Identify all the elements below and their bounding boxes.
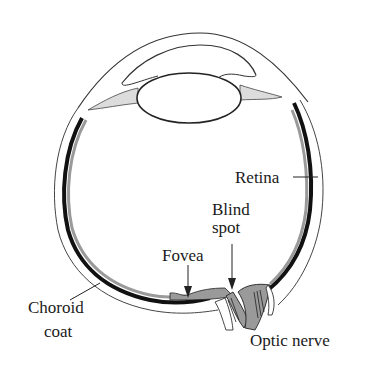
ciliary-body-left bbox=[88, 88, 138, 110]
optic-nerve-label: Optic nerve bbox=[250, 331, 330, 350]
choroid-label-line2: coat bbox=[44, 322, 72, 341]
retina-label: Retina bbox=[235, 168, 279, 187]
ciliary-body-right bbox=[240, 85, 282, 100]
fovea-label: Fovea bbox=[162, 246, 204, 265]
lens bbox=[137, 73, 241, 123]
eye-diagram bbox=[0, 0, 369, 377]
fovea-arrow bbox=[184, 265, 192, 298]
sclera-outer bbox=[54, 100, 323, 313]
choroid-label-line1: Choroid bbox=[28, 298, 84, 317]
blind-spot-label-line2: spot bbox=[212, 218, 240, 237]
blind-spot-label-line1: Blind bbox=[212, 200, 250, 219]
blind-spot-arrow bbox=[228, 244, 236, 290]
